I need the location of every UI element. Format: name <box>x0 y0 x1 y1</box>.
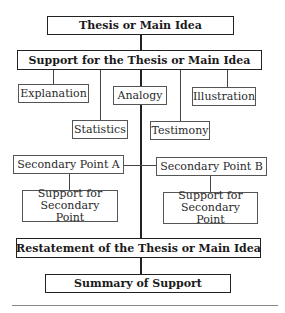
connector-restatement-summary <box>140 258 142 274</box>
secondary-point-b-box: Secondary Point B <box>156 157 267 176</box>
support-box: Support for the Thesis or Main Idea <box>17 50 262 70</box>
support-secondary-a-label: Support for Secondary Point <box>31 188 109 224</box>
connector-testimony <box>180 69 181 121</box>
analogy-box: Analogy <box>113 86 167 105</box>
illustration-box: Illustration <box>192 87 256 106</box>
connector-secondary-horizontal <box>124 165 156 166</box>
testimony-box: Testimony <box>150 121 210 140</box>
secondary-point-a-box: Secondary Point A <box>13 155 124 174</box>
support-secondary-b-label: Support for Secondary Point <box>172 190 249 226</box>
connector-thesis-support <box>140 34 142 50</box>
support-secondary-a-box: Support for Secondary Point <box>22 190 118 222</box>
connector-illustration <box>227 69 228 87</box>
support-secondary-b-box: Support for Secondary Point <box>163 192 258 224</box>
connector-statistics <box>100 69 101 120</box>
statistics-box: Statistics <box>72 120 128 139</box>
bottom-rule <box>12 305 278 306</box>
connector-explanation <box>53 69 54 84</box>
thesis-box: Thesis or Main Idea <box>47 16 234 35</box>
summary-box: Summary of Support <box>45 274 231 293</box>
restatement-box: Restatement of the Thesis or Main Idea <box>16 238 261 258</box>
explanation-box: Explanation <box>18 84 89 103</box>
